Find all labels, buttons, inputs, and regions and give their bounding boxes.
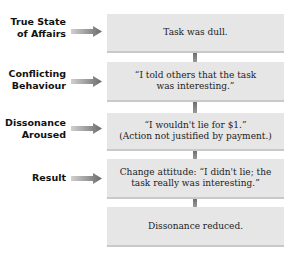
step-text: task really was interesting.” (120, 178, 272, 189)
step-text: Task was dull. (163, 27, 227, 38)
label-line: Aroused (22, 129, 66, 140)
label-true-state: True State of Affairs (0, 16, 66, 40)
step-box-conflicting-behaviour: “I told others that the task was interes… (107, 62, 284, 100)
connector-line (193, 102, 197, 113)
step-box-dissonance-reduced: Dissonance reduced. (107, 207, 284, 245)
step-text: “I wouldn't lie for $1.” (119, 120, 272, 131)
step-text: “I told others that the task (135, 70, 256, 81)
connector-line (193, 53, 197, 62)
connector-line (193, 151, 197, 159)
step-box-result: Change attitude: “I didn't lie; the task… (107, 159, 284, 197)
right-arrow-icon (71, 26, 102, 37)
label-result: Result (0, 172, 66, 184)
step-text: Change attitude: “I didn't lie; the (120, 167, 272, 178)
step-box-true-state: Task was dull. (107, 14, 284, 51)
right-arrow-icon (71, 123, 102, 134)
label-conflicting-behaviour: Conflicting Behaviour (0, 68, 66, 92)
step-text: (Action not justified by payment.) (119, 131, 272, 142)
step-text: was interesting.” (135, 81, 256, 92)
step-box-dissonance-aroused: “I wouldn't lie for $1.” (Action not jus… (107, 113, 284, 149)
label-line: of Affairs (17, 28, 66, 39)
label-line: Conflicting (8, 68, 66, 79)
step-text: Dissonance reduced. (148, 221, 243, 232)
connector-line (193, 199, 197, 207)
label-line: True State (11, 16, 66, 27)
label-line: Dissonance (5, 117, 66, 128)
label-line: Behaviour (12, 80, 66, 91)
label-line: Result (32, 172, 66, 183)
right-arrow-icon (71, 173, 102, 184)
label-dissonance-aroused: Dissonance Aroused (0, 117, 66, 141)
right-arrow-icon (71, 76, 102, 87)
